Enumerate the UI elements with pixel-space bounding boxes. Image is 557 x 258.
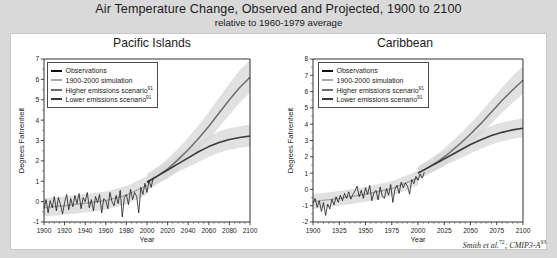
legend-footnote-ref: 91 bbox=[419, 86, 424, 91]
legend-footnote-ref: 91 bbox=[146, 95, 151, 100]
citation-middle: ; CMIP3-A bbox=[505, 241, 541, 250]
legend-caribbean: Observations1900-2000 simulationHigher e… bbox=[318, 62, 429, 108]
legend-swatch-icon bbox=[322, 70, 333, 72]
legend-item: Observations bbox=[322, 66, 424, 76]
legend-swatch-icon bbox=[322, 98, 333, 100]
citation-author: Smith et al. bbox=[463, 241, 499, 250]
citation-ref-2: 93 bbox=[540, 239, 546, 245]
figure-title: Air Temperature Change, Observed and Pro… bbox=[0, 2, 557, 17]
panel-title-pacific-islands: Pacific Islands bbox=[52, 36, 252, 50]
legend-item-label: Observations bbox=[337, 66, 378, 76]
legend-swatch-icon bbox=[51, 98, 62, 100]
panel-title-caribbean: Caribbean bbox=[300, 36, 510, 50]
title-block: Air Temperature Change, Observed and Pro… bbox=[0, 2, 557, 29]
citation: Smith et al.72; CMIP3-A93 bbox=[463, 239, 546, 250]
legend-item: Observations bbox=[51, 66, 153, 76]
legend-footnote-ref: 91 bbox=[417, 95, 422, 100]
legend-swatch-icon bbox=[51, 89, 62, 91]
figure-subtitle: relative to 1960-1979 average bbox=[0, 17, 557, 29]
legend-item: Lower emissions scenario91 bbox=[51, 95, 153, 105]
legend-swatch-icon bbox=[322, 89, 333, 91]
legend-item: Lower emissions scenario91 bbox=[322, 95, 424, 105]
figure-root: Air Temperature Change, Observed and Pro… bbox=[0, 0, 557, 258]
legend-footnote-ref: 91 bbox=[148, 86, 153, 91]
legend-swatch-icon bbox=[51, 79, 62, 81]
legend-pacific-islands: Observations1900-2000 simulationHigher e… bbox=[47, 62, 158, 108]
legend-swatch-icon bbox=[322, 79, 333, 81]
legend-item-label: Observations bbox=[66, 66, 107, 76]
legend-item-label: Lower emissions scenario91 bbox=[337, 93, 423, 105]
legend-item-label: Lower emissions scenario91 bbox=[66, 93, 152, 105]
legend-swatch-icon bbox=[51, 70, 62, 72]
